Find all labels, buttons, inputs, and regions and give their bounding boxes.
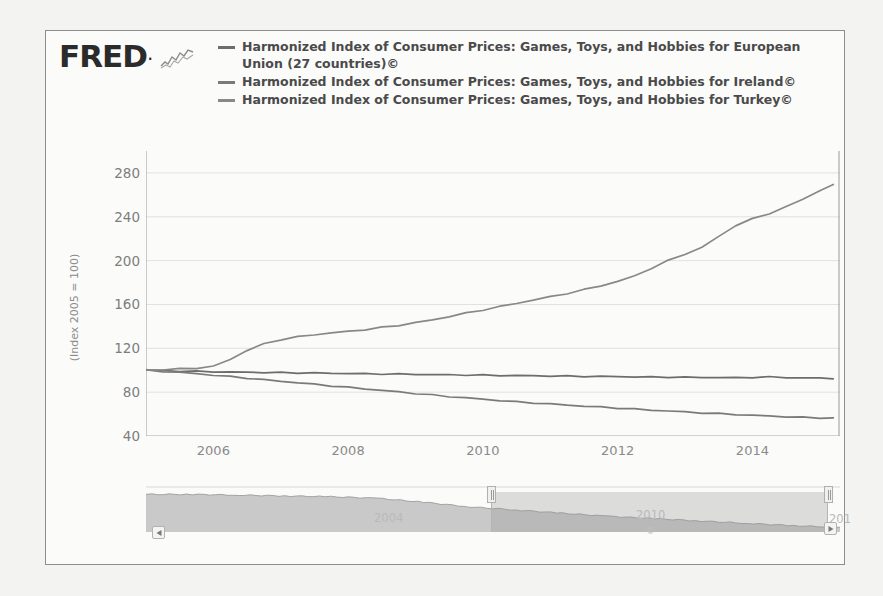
range-navigator[interactable]: 2004 2010 201 © <box>146 486 840 548</box>
navigator-handle-right[interactable] <box>824 486 833 503</box>
legend-label-ireland: Harmonized Index of Consumer Prices: Gam… <box>242 74 796 91</box>
line-chart-glyph-icon <box>160 47 194 69</box>
legend-item-turkey[interactable]: Harmonized Index of Consumer Prices: Gam… <box>218 92 818 109</box>
x-tick-2012: 2012 <box>583 443 653 458</box>
navigator-year-2004: 2004 <box>374 511 403 525</box>
chart-canvas[interactable] <box>146 151 840 436</box>
fred-chart-figure: FRED . Harmonized Index of Consumer Pric… <box>45 30 845 565</box>
x-tick-2014: 2014 <box>717 443 787 458</box>
navigator-scroll-left-button[interactable] <box>152 526 165 539</box>
x-tick-2008: 2008 <box>313 443 383 458</box>
legend-swatch-ireland-icon <box>218 81 235 84</box>
y-tick-160: 160 <box>80 296 140 312</box>
fred-wordmark-dot: . <box>147 41 153 65</box>
x-tick-2006: 2006 <box>178 443 248 458</box>
fred-wordmark: FRED <box>59 41 147 72</box>
triangle-right-icon <box>828 526 833 532</box>
legend-swatch-turkey-icon <box>218 99 235 102</box>
y-tick-280: 280 <box>80 165 140 181</box>
chart-header: FRED . Harmonized Index of Consumer Pric… <box>46 31 844 151</box>
x-tick-2010: 2010 <box>448 443 518 458</box>
y-axis-label: (Index 2005 = 100) <box>68 233 81 383</box>
y-tick-80: 80 <box>80 384 140 400</box>
navigator-copyright-mark: © <box>646 526 655 536</box>
fred-logo[interactable]: FRED . <box>59 41 194 72</box>
navigator-handle-left[interactable] <box>487 486 496 503</box>
page-background: FRED . Harmonized Index of Consumer Pric… <box>0 0 883 596</box>
navigator-scroll-right-button[interactable] <box>824 522 837 535</box>
legend-item-ireland[interactable]: Harmonized Index of Consumer Prices: Gam… <box>218 74 818 91</box>
y-tick-200: 200 <box>80 253 140 269</box>
chart-legend: Harmonized Index of Consumer Prices: Gam… <box>218 39 818 110</box>
legend-item-eu[interactable]: Harmonized Index of Consumer Prices: Gam… <box>218 39 818 73</box>
legend-swatch-eu-icon <box>218 46 235 49</box>
y-tick-240: 240 <box>80 209 140 225</box>
y-tick-120: 120 <box>80 340 140 356</box>
y-tick-40: 40 <box>80 428 140 444</box>
navigator-year-2010: 2010 <box>636 508 665 522</box>
legend-label-eu: Harmonized Index of Consumer Prices: Gam… <box>242 39 802 73</box>
triangle-left-icon <box>156 530 161 536</box>
legend-label-turkey: Harmonized Index of Consumer Prices: Gam… <box>242 92 793 109</box>
plot-area: (Index 2005 = 100) 2802402001601208040 2… <box>46 151 846 496</box>
